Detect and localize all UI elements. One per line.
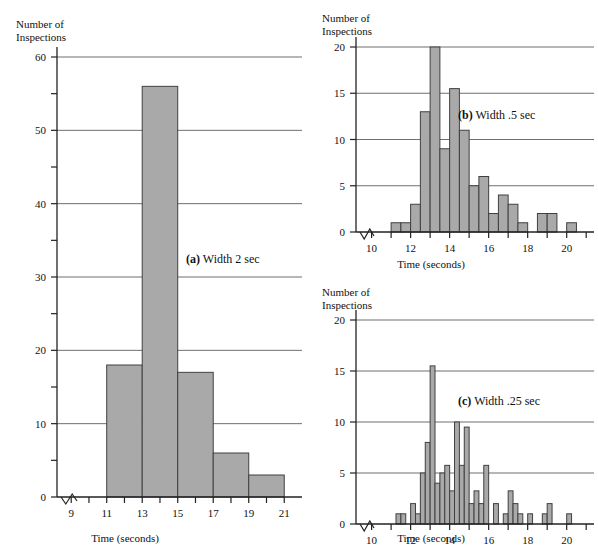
y-tick-label-c-10: 10	[334, 416, 346, 428]
y-axis-title-a: Number of Inspections	[16, 18, 66, 44]
y-tick-label-c-5: 5	[340, 467, 346, 479]
y-tick-label-a-30: 30	[35, 271, 47, 283]
x-tick-label-b-16: 16	[483, 242, 495, 254]
panel-caption-a: (a) Width 2 sec	[186, 252, 260, 267]
x-axis-title-c: Time (seconds)	[306, 532, 556, 544]
bar-b-10	[489, 214, 499, 233]
panel-letter-a: (a)	[186, 252, 200, 266]
x-tick-label-b-18: 18	[522, 242, 534, 254]
panel-caption-c: (c) Width .25 sec	[458, 394, 540, 409]
panel-b: Number of Inspections (b) Width .5 sec 0…	[306, 0, 598, 280]
bar-b-3	[420, 112, 430, 232]
bar-c-8	[440, 473, 445, 524]
y-tick-label-a-0: 0	[41, 491, 47, 503]
y-tick-label-b-20: 20	[334, 41, 346, 53]
bar-b-9	[479, 177, 489, 233]
bar-c-4	[420, 473, 425, 524]
bar-c-19	[503, 514, 508, 524]
x-tick-label-b-14: 14	[444, 242, 456, 254]
panel-width-b: Width .5 sec	[475, 108, 535, 122]
x-axis-title-a: Time (seconds)	[0, 532, 250, 544]
x-tick-label-a-21: 21	[279, 507, 290, 519]
panel-width-c: Width .25 sec	[474, 394, 540, 408]
panel-letter-c: (c)	[458, 394, 471, 408]
chart-c-canvas: 05101520101214161820	[306, 282, 598, 554]
y-tick-label-a-60: 60	[35, 51, 47, 63]
bar-b-15	[547, 214, 557, 233]
bar-c-10	[450, 491, 455, 524]
x-tick-label-a-19: 19	[243, 507, 255, 519]
y-tick-label-b-0: 0	[340, 226, 346, 238]
bar-b-12	[508, 204, 518, 232]
x-tick-label-a-13: 13	[137, 507, 149, 519]
bar-c-6	[430, 366, 435, 524]
bar-a-0	[107, 365, 143, 497]
bar-b-8	[469, 186, 479, 232]
bar-c-7	[435, 483, 440, 524]
bar-c-11	[455, 422, 460, 524]
bar-b-7	[459, 130, 469, 232]
x-axis-title-b: Time (seconds)	[306, 258, 556, 270]
y-tick-label-b-10: 10	[334, 134, 346, 146]
y-tick-label-a-50: 50	[35, 124, 47, 136]
bar-c-1	[401, 514, 406, 524]
bar-a-2	[178, 372, 214, 497]
bar-b-14	[537, 214, 547, 233]
bar-b-13	[518, 223, 528, 232]
bar-c-22	[518, 514, 523, 524]
bar-b-1	[401, 223, 411, 232]
bar-c-23	[528, 514, 533, 524]
chart-a-canvas: 01020304050609111315171921	[0, 0, 310, 554]
y-tick-label-c-0: 0	[340, 518, 346, 530]
bar-c-26	[567, 514, 572, 524]
x-tick-label-a-15: 15	[172, 507, 184, 519]
panel-letter-b: (b)	[458, 108, 473, 122]
bar-a-4	[249, 475, 285, 497]
bar-c-20	[508, 491, 513, 524]
y-tick-label-c-20: 20	[334, 314, 346, 326]
y-tick-label-b-15: 15	[334, 87, 346, 99]
bar-c-5	[425, 442, 430, 524]
bar-c-25	[547, 504, 552, 524]
histogram-figure: Number of Inspections (a) Width 2 sec 01…	[0, 0, 598, 554]
bar-c-12	[459, 465, 464, 524]
bar-a-3	[213, 453, 249, 497]
x-tick-label-b-12: 12	[405, 242, 416, 254]
y-tick-label-a-20: 20	[35, 344, 47, 356]
panel-c: Number of Inspections (c) Width .25 sec …	[306, 282, 598, 554]
bar-c-13	[464, 427, 469, 524]
bar-c-2	[411, 504, 416, 524]
bar-c-0	[396, 514, 401, 524]
bar-b-16	[567, 223, 577, 232]
bar-b-11	[498, 195, 508, 232]
bar-b-4	[430, 47, 440, 232]
x-axis-break-a	[61, 494, 77, 504]
x-tick-label-a-17: 17	[208, 507, 220, 519]
bar-c-15	[474, 491, 479, 524]
bar-c-17	[484, 465, 489, 524]
y-tick-label-a-40: 40	[35, 198, 47, 210]
bar-b-5	[440, 149, 450, 232]
x-tick-label-b-20: 20	[561, 242, 573, 254]
y-axis-title-b: Number of Inspections	[322, 12, 372, 38]
y-axis-title-c: Number of Inspections	[322, 286, 372, 312]
bar-c-14	[469, 504, 474, 524]
y-tick-label-a-10: 10	[35, 418, 47, 430]
bar-c-21	[513, 504, 518, 524]
panel-caption-b: (b) Width .5 sec	[458, 108, 535, 123]
bar-a-1	[142, 86, 178, 497]
y-tick-label-b-5: 5	[340, 180, 346, 192]
bar-b-2	[411, 204, 421, 232]
x-tick-label-c-20: 20	[561, 534, 573, 546]
bar-c-9	[445, 465, 450, 524]
panel-a: Number of Inspections (a) Width 2 sec 01…	[0, 0, 310, 554]
bar-b-0	[391, 223, 401, 232]
bar-c-16	[479, 504, 484, 524]
x-tick-label-b-10: 10	[366, 242, 378, 254]
bar-c-3	[416, 514, 421, 524]
y-tick-label-c-15: 15	[334, 365, 346, 377]
chart-b-canvas: 05101520101214161820	[306, 0, 598, 280]
x-tick-label-a-9: 9	[68, 507, 74, 519]
bar-c-24	[542, 514, 547, 524]
bar-c-18	[494, 504, 499, 524]
